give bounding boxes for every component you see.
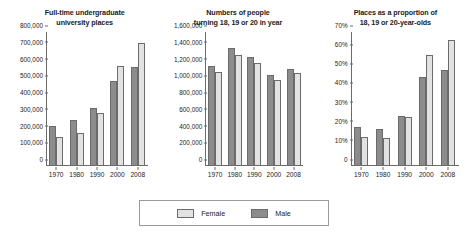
bar-group xyxy=(49,32,63,166)
bar-female[interactable] xyxy=(235,55,242,166)
bar-female[interactable] xyxy=(56,137,63,166)
bar-group xyxy=(398,32,412,166)
bar-group xyxy=(110,32,124,166)
x-axis-label: 2008 xyxy=(440,171,455,178)
y-axis-tick-label: 400,000 xyxy=(20,89,43,96)
bar-group xyxy=(247,32,261,166)
x-axis-label: 2008 xyxy=(130,171,145,178)
chart-legend: Female Male xyxy=(139,200,329,226)
bar-male[interactable] xyxy=(354,127,361,166)
bar-group xyxy=(419,32,433,166)
y-axis-tick-label: 400,000 xyxy=(179,122,202,129)
bar-male[interactable] xyxy=(70,120,77,166)
bar-groups xyxy=(46,32,148,166)
x-axis-label: 2008 xyxy=(286,171,301,178)
y-axis-tick-label: 10% xyxy=(335,136,348,143)
y-axis-tick-label: 70% xyxy=(335,22,348,29)
x-axis-tick-mark xyxy=(254,167,255,170)
y-axis-tick-mark xyxy=(350,25,353,26)
bar-male[interactable] xyxy=(228,48,235,166)
x-axis-label: 2000 xyxy=(267,171,282,178)
y-axis-tick-label: 200,000 xyxy=(179,139,202,146)
plot-area: 010%20%30%40%50%60%70% 19701980199020002… xyxy=(351,32,459,166)
y-axis-tick-label: 0 xyxy=(199,156,203,163)
legend-swatch-female-icon xyxy=(177,209,194,218)
y-axis-tick-label: 1,000,000 xyxy=(174,72,202,79)
x-axis-label: 1990 xyxy=(247,171,262,178)
chart-panel-university-places: Full-time undergraduate university place… xyxy=(0,0,155,196)
x-axis-tick-mark xyxy=(76,167,77,170)
bar-male[interactable] xyxy=(90,108,97,166)
x-axis-tick-mark xyxy=(96,167,97,170)
bar-male[interactable] xyxy=(208,66,215,166)
x-axis-label: 1970 xyxy=(354,171,369,178)
bar-female[interactable] xyxy=(77,133,84,166)
x-axis-tick-mark xyxy=(273,167,274,170)
x-axis-tick-mark xyxy=(215,167,216,170)
x-axis-tick-mark xyxy=(426,167,427,170)
x-axis-tick-mark xyxy=(383,167,384,170)
x-axis-tick-mark xyxy=(404,167,405,170)
bar-female[interactable] xyxy=(254,63,261,166)
y-axis-tick-label: 700,000 xyxy=(20,38,43,45)
bar-group xyxy=(131,32,145,166)
chart-title-line: Numbers of people xyxy=(165,8,310,18)
bar-female[interactable] xyxy=(405,117,412,166)
x-axis-label: 1980 xyxy=(376,171,391,178)
x-axis-label: 1980 xyxy=(227,171,242,178)
bar-female[interactable] xyxy=(448,40,455,166)
bar-male[interactable] xyxy=(287,69,294,166)
x-axis-label: 2000 xyxy=(419,171,434,178)
bar-male[interactable] xyxy=(376,129,383,166)
bar-female[interactable] xyxy=(383,138,390,166)
bar-male[interactable] xyxy=(49,126,56,166)
bar-male[interactable] xyxy=(131,67,138,166)
bar-male[interactable] xyxy=(441,70,448,166)
bar-male[interactable] xyxy=(267,75,274,166)
bar-male[interactable] xyxy=(110,81,117,166)
y-axis-tick-label: 60% xyxy=(335,41,348,48)
bar-male[interactable] xyxy=(419,77,426,166)
y-axis-tick-label: 600,000 xyxy=(20,55,43,62)
bar-female[interactable] xyxy=(97,113,104,166)
bar-female[interactable] xyxy=(294,73,301,166)
x-axis-tick-mark xyxy=(117,167,118,170)
legend-item-female: Female xyxy=(177,209,225,218)
bar-female[interactable] xyxy=(117,66,124,167)
chart-title-line: Full-time undergraduate xyxy=(14,8,155,18)
x-axis-label: 1970 xyxy=(208,171,223,178)
bar-groups xyxy=(205,32,303,166)
bar-group xyxy=(208,32,222,166)
bar-group xyxy=(90,32,104,166)
y-axis-tick-label: 50% xyxy=(335,60,348,67)
bar-female[interactable] xyxy=(215,72,222,166)
x-axis-tick-mark xyxy=(293,167,294,170)
bar-group xyxy=(354,32,368,166)
x-axis-label: 1990 xyxy=(90,171,105,178)
bar-female[interactable] xyxy=(138,43,145,166)
x-axis-tick-mark xyxy=(361,167,362,170)
legend-label-female: Female xyxy=(201,209,225,218)
plot-area: 0100,000200,000300,000400,000500,000600,… xyxy=(46,32,148,166)
legend-item-male: Male xyxy=(251,209,291,218)
bar-male[interactable] xyxy=(247,57,254,166)
bar-female[interactable] xyxy=(426,55,433,166)
bar-group xyxy=(70,32,84,166)
x-axis-tick-mark xyxy=(137,167,138,170)
y-axis-tick-label: 40% xyxy=(335,79,348,86)
bar-group xyxy=(441,32,455,166)
chart-title-line: Places as a proportion of xyxy=(325,8,466,18)
legend-label-male: Male xyxy=(275,209,291,218)
x-axis-labels: 19701980199020002008 xyxy=(205,171,303,178)
x-axis-label: 1990 xyxy=(397,171,412,178)
y-axis-tick-label: 30% xyxy=(335,98,348,105)
legend-swatch-male-icon xyxy=(251,209,268,218)
x-axis-labels: 19701980199020002008 xyxy=(46,171,148,178)
y-axis-tick-label: 500,000 xyxy=(20,72,43,79)
bar-groups xyxy=(351,32,459,166)
chart-panel-proportion: Places as a proportion of 18, 19 or 20-y… xyxy=(311,0,466,196)
bar-female[interactable] xyxy=(274,80,281,166)
y-axis-tick-label: 1,200,000 xyxy=(174,55,202,62)
bar-female[interactable] xyxy=(361,137,368,166)
bar-male[interactable] xyxy=(398,116,405,166)
